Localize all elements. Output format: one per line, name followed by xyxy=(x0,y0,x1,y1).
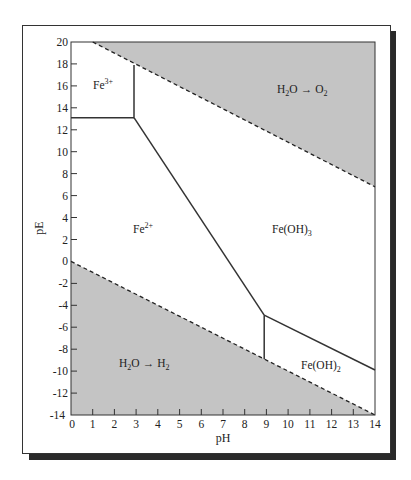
svg-text:14: 14 xyxy=(369,418,381,430)
svg-text:8: 8 xyxy=(62,168,68,180)
pe-ph-diagram: 20 18 16 14 12 10 8 6 4 2 0 -2 -4 -6 -8 … xyxy=(0,0,411,480)
svg-text:16: 16 xyxy=(57,80,69,92)
region-label-feoh2: Fe(OH)2 xyxy=(301,359,341,374)
y-axis-label: pE xyxy=(32,221,46,234)
svg-text:4: 4 xyxy=(155,418,161,430)
boundary-fe2-feoh3 xyxy=(134,118,264,316)
svg-text:0: 0 xyxy=(69,418,75,430)
svg-text:-10: -10 xyxy=(53,365,69,377)
region-label-fe3: Fe3+ xyxy=(93,77,114,91)
svg-text:8: 8 xyxy=(242,418,248,430)
svg-text:9: 9 xyxy=(264,418,270,430)
svg-text:-6: -6 xyxy=(58,321,68,333)
svg-text:13: 13 xyxy=(348,418,360,430)
region-label-fe2: Fe2+ xyxy=(133,221,154,235)
svg-text:-2: -2 xyxy=(58,277,68,289)
region-label-feoh3: Fe(OH)3 xyxy=(272,223,312,238)
svg-text:10: 10 xyxy=(282,418,294,430)
x-tick-labels: 0 1 2 3 4 5 6 7 8 9 10 11 12 13 14 xyxy=(69,418,381,430)
svg-text:5: 5 xyxy=(177,418,183,430)
svg-text:12: 12 xyxy=(57,124,69,136)
svg-text:-14: -14 xyxy=(50,409,66,421)
svg-text:-4: -4 xyxy=(58,299,68,311)
svg-text:4: 4 xyxy=(62,212,68,224)
svg-text:18: 18 xyxy=(57,58,69,70)
svg-text:14: 14 xyxy=(57,102,69,114)
svg-text:2: 2 xyxy=(62,234,68,246)
y-tick-labels: 20 18 16 14 12 10 8 6 4 2 0 -2 -4 -6 -8 … xyxy=(50,36,69,421)
svg-text:7: 7 xyxy=(220,418,226,430)
svg-text:1: 1 xyxy=(90,418,96,430)
x-axis-label: pH xyxy=(216,431,231,445)
svg-text:0: 0 xyxy=(62,255,68,267)
svg-text:11: 11 xyxy=(304,418,315,430)
svg-text:20: 20 xyxy=(57,36,69,48)
svg-text:2: 2 xyxy=(112,418,118,430)
svg-text:12: 12 xyxy=(326,418,338,430)
svg-text:6: 6 xyxy=(62,190,68,202)
svg-text:3: 3 xyxy=(133,418,139,430)
svg-text:10: 10 xyxy=(57,146,69,158)
svg-text:-8: -8 xyxy=(58,343,68,355)
svg-text:-12: -12 xyxy=(53,387,69,399)
svg-text:6: 6 xyxy=(198,418,204,430)
